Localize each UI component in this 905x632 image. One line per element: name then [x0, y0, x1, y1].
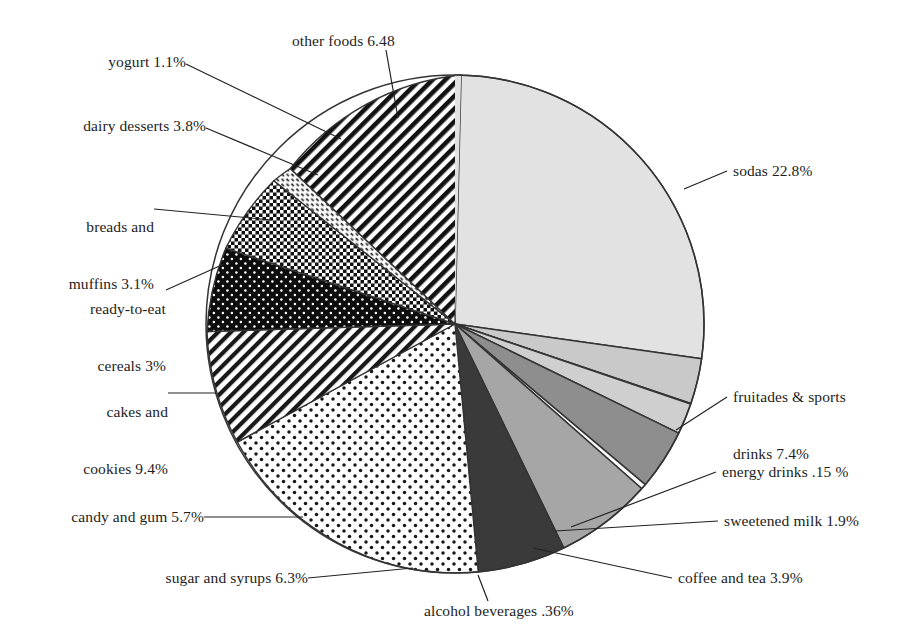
label-candy-and-gum: candy and gum 5.7%	[0, 508, 204, 527]
leader-sodas	[684, 171, 727, 189]
label-breads-and-muffins-line1: breads and	[0, 218, 154, 237]
label-sweetened-milk: sweetened milk 1.9%	[724, 512, 859, 531]
pie-slices	[207, 75, 704, 573]
leader-coffee-tea	[533, 548, 672, 578]
label-coffee-and-tea: coffee and tea 3.9%	[678, 569, 803, 588]
label-dairy-desserts: dairy desserts 3.8%	[0, 117, 206, 136]
label-fruitades-sports-drinks: fruitades & sports drinks 7.4%	[733, 350, 846, 501]
leader-alcohol	[478, 575, 488, 601]
label-yogurt: yogurt 1.1%	[0, 53, 186, 72]
leader-sugar-syrups	[308, 568, 413, 578]
label-sugar-and-syrups: sugar and syrups 6.3%	[0, 569, 308, 588]
slice-sodas[interactable]	[455, 75, 704, 359]
label-cakes-and-cookies: cakes and cookies 9.4%	[0, 365, 168, 516]
pie-chart-figure: other foods 6.48 yogurt 1.1% dairy desse…	[0, 0, 905, 632]
label-fruitades-sports-drinks-line1: fruitades & sports	[733, 388, 846, 407]
label-other-foods: other foods 6.48	[292, 32, 395, 51]
label-cakes-and-cookies-line2: cookies 9.4%	[0, 460, 168, 479]
label-fruitades-sports-drinks-line2: drinks 7.4%	[733, 445, 846, 464]
label-sodas: sodas 22.8%	[733, 162, 812, 181]
leader-dairy-desserts	[206, 128, 318, 175]
label-ready-to-eat-cereals-line1: ready-to-eat	[0, 300, 166, 319]
label-alcohol-beverages: alcohol beverages .36%	[424, 602, 574, 621]
label-cakes-and-cookies-line1: cakes and	[0, 403, 168, 422]
leader-yogurt	[186, 64, 341, 139]
